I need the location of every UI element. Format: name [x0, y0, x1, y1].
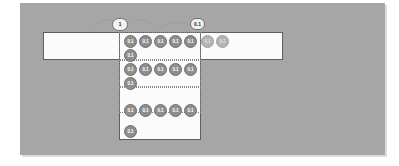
value-chip[interactable]: 0.1	[124, 63, 137, 76]
value-chip[interactable]: 0.1	[139, 35, 152, 48]
value-chip[interactable]: 0.1	[184, 63, 197, 76]
value-chip[interactable]: 0.1	[169, 104, 182, 117]
value-chip[interactable]: 0.1	[124, 104, 137, 117]
value-chip[interactable]: 0.1	[154, 35, 167, 48]
value-chip[interactable]: 0.1	[154, 104, 167, 117]
pin-left[interactable]: 1	[112, 18, 128, 31]
diagram-root: 10.10.10.10.10.10.10.10.10.10.10.10.10.1…	[0, 0, 399, 166]
value-chip[interactable]: 0.1	[124, 125, 137, 138]
value-chip[interactable]: 0.1	[139, 104, 152, 117]
value-chip[interactable]: 0.1	[139, 63, 152, 76]
value-chip[interactable]: 0.1	[184, 104, 197, 117]
value-chip[interactable]: 0.1	[216, 35, 229, 48]
value-chip[interactable]: 0.1	[124, 35, 137, 48]
value-chip[interactable]: 0.1	[169, 35, 182, 48]
value-chip[interactable]: 0.1	[201, 35, 214, 48]
value-chip[interactable]: 0.1	[169, 63, 182, 76]
value-chip[interactable]: 0.1	[154, 63, 167, 76]
value-chip[interactable]: 0.1	[184, 35, 197, 48]
value-chip[interactable]: 0.1	[124, 49, 137, 62]
value-chip[interactable]: 0.1	[124, 77, 137, 90]
pin-right[interactable]: 0.1	[190, 18, 205, 30]
